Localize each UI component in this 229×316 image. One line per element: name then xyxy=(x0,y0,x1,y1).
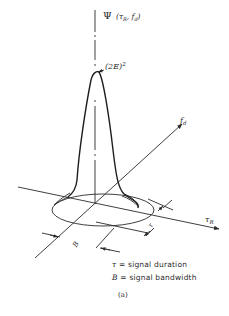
legend-symbol-b: B xyxy=(112,273,118,282)
fd-axis-label: fd xyxy=(179,116,187,126)
fd-axis xyxy=(35,124,182,258)
legend-text-b: = signal bandwidth xyxy=(120,273,196,282)
legend: τ = signal duration B = signal bandwidth xyxy=(112,258,197,284)
peak-label: (2E)2 xyxy=(105,61,126,72)
peak-pointer xyxy=(98,70,104,72)
legend-item-b: B = signal bandwidth xyxy=(112,271,197,284)
b-dimension: B xyxy=(42,228,120,252)
psi-label: Ψ (τR, fd) xyxy=(103,10,141,22)
tr-axis xyxy=(18,187,219,229)
base-contour-ellipse xyxy=(52,194,154,226)
legend-symbol-tau: τ xyxy=(112,260,116,269)
tau-dimension: τ xyxy=(96,199,173,236)
ambiguity-surface xyxy=(68,72,138,208)
b-dim-label: B xyxy=(71,240,81,249)
figure-caption: (a) xyxy=(118,291,128,299)
tr-axis-label: τR xyxy=(205,215,214,225)
legend-item-tau: τ = signal duration xyxy=(112,258,197,271)
legend-text-tau: = signal duration xyxy=(119,260,187,269)
